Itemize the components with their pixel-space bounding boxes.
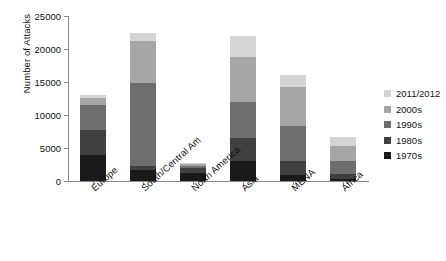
bar-south-central-am xyxy=(130,33,156,181)
bar-segment-2011-2012 xyxy=(280,75,306,86)
bar-segment-1980s xyxy=(80,130,106,154)
y-tick-mark xyxy=(64,115,68,116)
y-tick-label: 15000 xyxy=(1,77,68,88)
bar-segment-2000s xyxy=(80,98,106,105)
legend-label: 2000s xyxy=(396,104,422,115)
bar-segment-2000s xyxy=(280,87,306,127)
y-tick-mark xyxy=(64,16,68,17)
y-axis-line xyxy=(68,16,69,181)
x-axis-line xyxy=(68,181,369,182)
legend-swatch-icon xyxy=(384,137,391,144)
legend-swatch-icon xyxy=(384,152,391,159)
bar-segment-2000s xyxy=(230,57,256,102)
bar-segment-2011-2012 xyxy=(230,36,256,57)
bar-segment-2000s xyxy=(130,41,156,83)
legend-item: 2000s xyxy=(384,102,440,118)
bar-segment-1990s xyxy=(80,105,106,130)
legend-label: 1990s xyxy=(396,119,422,130)
y-tick-label: 10000 xyxy=(1,110,68,121)
y-tick-label: 5000 xyxy=(1,143,68,154)
y-tick-mark xyxy=(64,82,68,83)
bar-mena xyxy=(280,75,306,181)
legend-label: 1980s xyxy=(396,135,422,146)
legend-item: 2011/2012 xyxy=(384,86,440,102)
bar-segment-1990s xyxy=(230,102,256,138)
y-tick-mark xyxy=(64,181,68,182)
y-tick-mark xyxy=(64,49,68,50)
legend-swatch-icon xyxy=(384,106,391,113)
legend-item: 1990s xyxy=(384,117,440,133)
bar-segment-1990s xyxy=(130,83,156,166)
legend: 2011/20122000s1990s1980s1970s xyxy=(384,86,440,164)
bar-segment-2011-2012 xyxy=(330,137,356,146)
legend-swatch-icon xyxy=(384,121,391,128)
legend-item: 1970s xyxy=(384,148,440,164)
bar-segment-2011-2012 xyxy=(130,33,156,42)
legend-swatch-icon xyxy=(384,90,391,97)
y-tick-label: 25000 xyxy=(1,11,68,22)
bar-segment-2000s xyxy=(330,146,356,161)
y-tick-label: 20000 xyxy=(1,44,68,55)
plot-area: 0500010000150002000025000 EuropeSouth/Ce… xyxy=(68,16,368,181)
bar-europe xyxy=(80,95,106,181)
legend-item: 1980s xyxy=(384,133,440,149)
y-tick-label: 0 xyxy=(1,176,68,187)
legend-label: 1970s xyxy=(396,150,422,161)
y-tick-mark xyxy=(64,148,68,149)
legend-label: 2011/2012 xyxy=(396,88,440,99)
stacked-bar-chart: Number of Attacks 0500010000150002000025… xyxy=(0,0,446,261)
bar-segment-1990s xyxy=(280,126,306,160)
